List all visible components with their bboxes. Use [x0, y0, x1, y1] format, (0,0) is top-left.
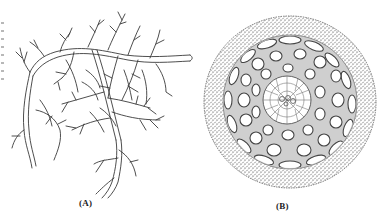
panel-label-a: (A) — [79, 198, 92, 208]
root-cross-section-drawing — [200, 10, 384, 200]
figure: (A) (B) — [0, 0, 384, 219]
stele — [263, 76, 311, 124]
panel-label-b: (B) — [276, 201, 289, 211]
root-system-drawing — [0, 0, 200, 200]
